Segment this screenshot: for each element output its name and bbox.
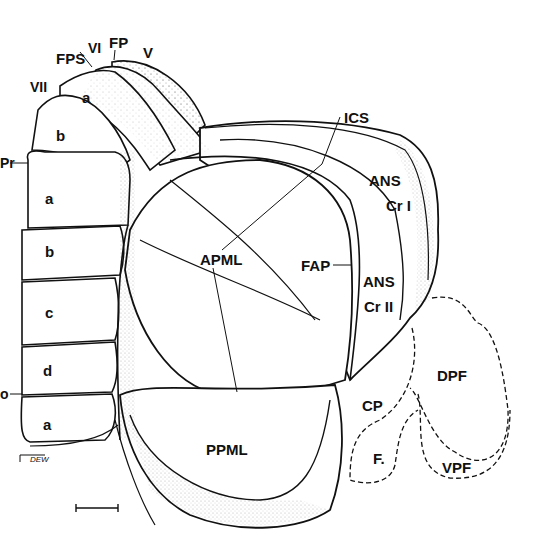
label-ppml: PPML <box>206 442 248 457</box>
label-vi: VI <box>88 41 101 55</box>
label-fap: FAP <box>301 258 330 273</box>
label-cr2: Cr II <box>364 299 393 314</box>
label-fp: FP <box>109 35 128 50</box>
label-vpf: VPF <box>442 460 471 475</box>
label-lobule-c: c <box>45 305 53 320</box>
label-ics: ICS <box>344 110 369 125</box>
label-lobule-d: d <box>43 363 52 378</box>
label-dpf: DPF <box>437 368 467 383</box>
label-vii: VII <box>30 80 47 94</box>
label-po: o <box>0 387 9 401</box>
apml-lobule <box>125 160 352 397</box>
label-ans-cr1: ANS <box>369 173 401 188</box>
label-vii-a: a <box>82 90 90 105</box>
signature: DEW <box>30 456 49 464</box>
label-ans-cr2: ANS <box>363 274 395 289</box>
label-vii-b: b <box>56 128 65 143</box>
label-lobule-a2: a <box>43 417 51 432</box>
label-lobule-a: a <box>45 191 53 206</box>
label-cr1: Cr I <box>386 198 411 213</box>
label-v: V <box>143 45 153 60</box>
label-f: F. <box>373 451 385 466</box>
label-apml: APML <box>200 252 243 267</box>
label-cp: CP <box>362 398 383 413</box>
label-pr: Pr <box>0 156 15 170</box>
label-lobule-b: b <box>45 244 54 259</box>
label-fps: FPS <box>56 51 85 66</box>
scale-bar <box>76 504 118 512</box>
